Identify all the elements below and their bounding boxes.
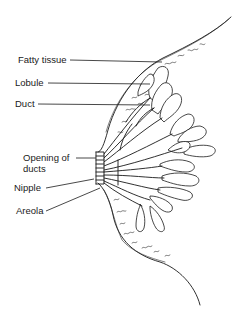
nipple — [96, 152, 104, 184]
label-fatty-tissue: Fatty tissue — [18, 55, 67, 65]
lobules — [136, 66, 215, 231]
label-areola: Areola — [16, 206, 43, 216]
leader-areola — [46, 188, 100, 211]
label-opening-of-ducts-line2: ducts — [23, 164, 46, 174]
leader-fatty-tissue — [70, 60, 162, 62]
label-nipple: Nipple — [14, 183, 41, 193]
label-duct: Duct — [15, 99, 35, 109]
label-lobule: Lobule — [15, 78, 44, 88]
leader-lobule — [48, 83, 150, 84]
breast-anatomy-diagram: Fatty tissue Lobule Duct Opening of duct… — [0, 0, 247, 313]
leader-nipple — [46, 179, 94, 188]
label-opening-of-ducts-line1: Opening of — [23, 153, 69, 163]
leader-duct — [38, 104, 150, 105]
